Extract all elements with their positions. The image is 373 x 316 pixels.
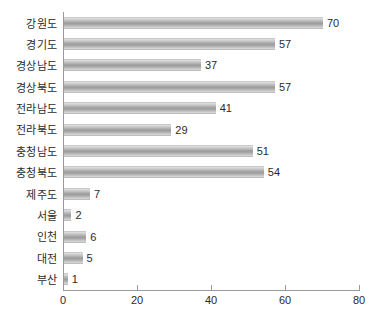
bar xyxy=(64,145,253,157)
bar-value-label: 57 xyxy=(279,38,291,50)
bar xyxy=(64,209,71,221)
bar-value-label: 29 xyxy=(175,124,187,136)
x-axis-tick xyxy=(285,285,286,290)
bar-row: 경상북도57 xyxy=(64,76,360,97)
bar-value-label: 54 xyxy=(268,166,280,178)
x-axis-tick-label: 60 xyxy=(279,294,291,306)
bar xyxy=(64,59,201,71)
category-label: 제주도 xyxy=(0,183,57,204)
bar xyxy=(64,124,171,136)
bar-row: 경기도57 xyxy=(64,33,360,54)
category-label: 서울 xyxy=(0,204,57,225)
bar-value-label: 7 xyxy=(94,188,100,200)
bar-group: 54 xyxy=(64,166,280,178)
bar-row: 전라북도29 xyxy=(64,119,360,140)
bar-value-label: 51 xyxy=(257,145,269,157)
category-label: 충청남도 xyxy=(0,140,57,161)
bar-value-label: 6 xyxy=(90,231,96,243)
bar-group: 29 xyxy=(64,124,188,136)
x-axis-tick-label: 20 xyxy=(131,294,143,306)
category-label: 경상북도 xyxy=(0,76,57,97)
bar-row: 충청북도54 xyxy=(64,162,360,183)
bar xyxy=(64,252,83,264)
bar-group: 5 xyxy=(64,252,93,264)
x-axis-line xyxy=(63,290,360,291)
bar-row: 전라남도41 xyxy=(64,98,360,119)
x-axis-tick xyxy=(211,285,212,290)
bar xyxy=(64,166,264,178)
category-label: 경기도 xyxy=(0,33,57,54)
bar xyxy=(64,17,323,29)
category-label: 충청북도 xyxy=(0,162,57,183)
category-label: 인천 xyxy=(0,226,57,247)
bar-row: 서울2 xyxy=(64,204,360,225)
bar xyxy=(64,188,90,200)
bar-group: 1 xyxy=(64,273,78,285)
x-axis-tick-label: 0 xyxy=(60,294,66,306)
category-label: 대전 xyxy=(0,247,57,268)
bar-group: 41 xyxy=(64,102,232,114)
category-label: 경상남도 xyxy=(0,55,57,76)
bar xyxy=(64,81,275,93)
bar-row: 강원도70 xyxy=(64,12,360,33)
x-axis-tick xyxy=(137,285,138,290)
bar-row: 부산1 xyxy=(64,269,360,290)
bar-chart: 강원도70경기도57경상남도37경상북도57전라남도41전라북도29충청남도51… xyxy=(0,0,373,316)
x-axis-tick xyxy=(359,285,360,290)
x-axis-tick-label: 40 xyxy=(205,294,217,306)
bar-value-label: 70 xyxy=(327,17,339,29)
x-axis-tick xyxy=(63,285,64,290)
bar-value-label: 37 xyxy=(205,59,217,71)
bar xyxy=(64,273,68,285)
bar-value-label: 41 xyxy=(220,102,232,114)
bar-row: 대전5 xyxy=(64,247,360,268)
bar xyxy=(64,38,275,50)
bar-group: 6 xyxy=(64,231,96,243)
bar xyxy=(64,231,86,243)
bar xyxy=(64,102,216,114)
bar-row: 경상남도37 xyxy=(64,55,360,76)
plot-area: 강원도70경기도57경상남도37경상북도57전라남도41전라북도29충청남도51… xyxy=(64,12,360,290)
bar-group: 7 xyxy=(64,188,100,200)
bar-group: 2 xyxy=(64,209,82,221)
bar-row: 제주도7 xyxy=(64,183,360,204)
bar-value-label: 1 xyxy=(72,273,78,285)
category-label: 강원도 xyxy=(0,12,57,33)
bar-group: 37 xyxy=(64,59,217,71)
bar-value-label: 57 xyxy=(279,81,291,93)
bar-value-label: 2 xyxy=(75,209,81,221)
x-axis-tick-label: 80 xyxy=(353,294,365,306)
category-label: 부산 xyxy=(0,269,57,290)
bar-row: 인천6 xyxy=(64,226,360,247)
bar-row: 충청남도51 xyxy=(64,140,360,161)
category-label: 전라북도 xyxy=(0,119,57,140)
bar-group: 70 xyxy=(64,17,339,29)
bar-group: 51 xyxy=(64,145,269,157)
category-label: 전라남도 xyxy=(0,98,57,119)
bar-value-label: 5 xyxy=(87,252,93,264)
bar-group: 57 xyxy=(64,38,291,50)
bar-group: 57 xyxy=(64,81,291,93)
